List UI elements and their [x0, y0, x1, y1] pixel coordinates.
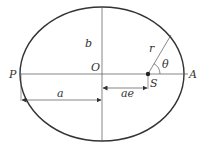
label-S: S: [150, 77, 158, 90]
diagram-canvas: P A O S b r θ a ae: [0, 0, 205, 147]
label-a: a: [57, 87, 64, 100]
label-P: P: [8, 68, 17, 81]
focus-point: [146, 72, 150, 76]
label-b: b: [85, 37, 92, 50]
ellipse-diagram: P A O S b r θ a ae: [0, 0, 205, 147]
label-r: r: [149, 42, 155, 55]
theta-arc: [154, 64, 160, 74]
label-O: O: [91, 61, 100, 74]
label-ae: ae: [121, 87, 135, 100]
label-theta: θ: [162, 58, 169, 71]
label-A: A: [188, 68, 197, 81]
